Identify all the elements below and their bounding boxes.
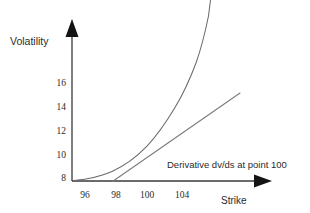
x-tick-label-96: 96: [72, 190, 98, 200]
x-tick-label-100: 100: [134, 190, 160, 200]
y-axis-title: Volatility: [10, 36, 49, 47]
y-tick-label-16: 16: [44, 78, 66, 88]
arrow-up-icon: [66, 19, 79, 37]
y-tick-label-14: 14: [44, 102, 66, 112]
y-tick-label-8: 8: [44, 173, 66, 183]
derivative-annotation: Derivative dv/ds at point 100: [167, 160, 287, 170]
volatility-smile-chart: Volatility Strike Derivative dv/ds at po…: [0, 0, 310, 213]
volatility-curve: [74, 0, 211, 181]
x-tick-label-98: 98: [103, 190, 129, 200]
x-tick-label-104: 104: [169, 190, 195, 200]
y-tick-label-10: 10: [44, 150, 66, 160]
arrow-right-icon: [254, 175, 272, 188]
x-axis-title: Strike: [221, 196, 247, 206]
y-tick-label-12: 12: [44, 126, 66, 136]
